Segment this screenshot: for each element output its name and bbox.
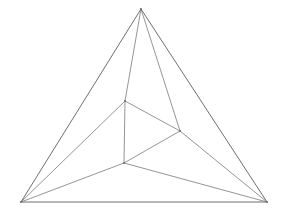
- vertex-inner-top: [124, 100, 126, 102]
- vertex-inner-right: [179, 130, 181, 132]
- wireframe-figure: [0, 0, 283, 213]
- vertex-outer-apex: [140, 8, 142, 10]
- vertex-inner-bottom: [123, 162, 125, 164]
- vertex-outer-bottom-left: [20, 201, 22, 203]
- vertex-outer-bottom-right: [266, 201, 268, 203]
